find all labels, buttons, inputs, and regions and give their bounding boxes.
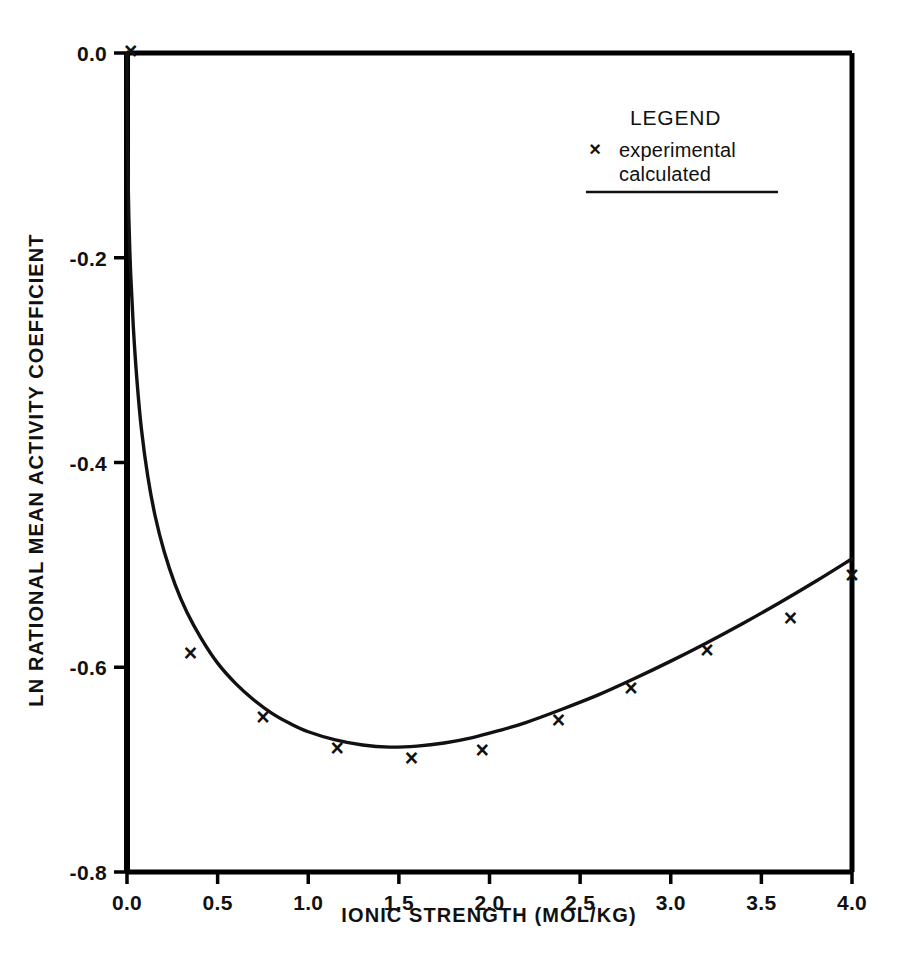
x-tick-label: 4.0 (837, 891, 867, 914)
x-axis-title: IONIC STRENGTH (MOL/KG) (341, 904, 636, 926)
x-tick-label: 0.0 (112, 891, 142, 914)
legend-label-experimental: experimental (619, 139, 736, 161)
data-point-marker: × (124, 38, 137, 64)
legend-marker-experimental-icon: × (589, 138, 601, 160)
x-tick-label: 3.0 (656, 891, 686, 914)
figure-container: 0.00.51.01.52.02.53.03.54.0 0.0-0.2-0.4-… (0, 0, 908, 980)
y-axis-title: LN RATIONAL MEAN ACTIVITY COEFFICIENT (25, 233, 47, 706)
x-tick-label: 1.0 (293, 891, 323, 914)
x-tick-label: 0.5 (203, 891, 233, 914)
y-tick-label: -0.4 (70, 452, 107, 475)
y-tick-label: -0.2 (70, 247, 107, 270)
data-point-marker: × (405, 745, 418, 771)
data-point-marker: × (624, 675, 637, 701)
data-point-marker: × (184, 640, 197, 666)
figure-background (0, 0, 908, 980)
data-point-marker: × (784, 605, 797, 631)
data-point-marker: × (845, 562, 858, 588)
y-tick-label: 0.0 (77, 42, 107, 65)
x-tick-label: 3.5 (746, 891, 776, 914)
y-tick-label: -0.8 (70, 861, 107, 884)
data-point-marker: × (331, 735, 344, 761)
data-point-marker: × (552, 707, 565, 733)
data-point-marker: × (700, 637, 713, 663)
data-point-marker: × (476, 737, 489, 763)
legend-heading: LEGEND (630, 106, 721, 129)
y-tick-label: -0.6 (70, 656, 107, 679)
legend-label-calculated: calculated (619, 163, 711, 185)
data-point-marker: × (256, 704, 269, 730)
chart-canvas: 0.00.51.01.52.02.53.03.54.0 0.0-0.2-0.4-… (0, 0, 908, 980)
